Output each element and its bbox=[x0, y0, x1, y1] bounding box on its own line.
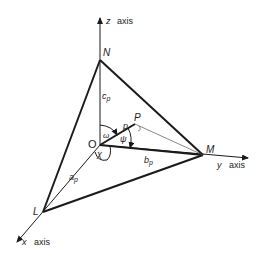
edge-NM bbox=[100, 60, 203, 155]
point-N-label: N bbox=[103, 47, 111, 58]
z-axis-name: z bbox=[105, 16, 111, 26]
edge-NL bbox=[43, 60, 100, 212]
x-axis-name: x bbox=[21, 237, 27, 247]
intercept-diagram: z axis y axis x axis N M L P O cp bp ap … bbox=[0, 0, 267, 257]
bp-label: bp bbox=[144, 155, 153, 167]
point-P-label: P bbox=[134, 112, 141, 123]
point-L-label: L bbox=[33, 206, 39, 217]
cp-label: cp bbox=[102, 91, 111, 103]
x-axis-label: axis bbox=[34, 237, 51, 247]
psi-label: ψ bbox=[120, 134, 127, 144]
p-label: p bbox=[122, 121, 128, 131]
segment-OM bbox=[100, 145, 203, 155]
origin-O-label: O bbox=[88, 138, 97, 150]
ap-label: ap bbox=[69, 172, 78, 184]
psi-arc bbox=[128, 128, 131, 148]
x-axis-line bbox=[17, 145, 100, 242]
y-axis-name: y bbox=[216, 160, 222, 170]
z-axis-label: axis bbox=[117, 16, 134, 26]
chi-label: χ bbox=[96, 149, 103, 159]
omega-label: ω bbox=[103, 131, 109, 140]
point-M-label: M bbox=[206, 144, 215, 155]
right-angle-mark bbox=[138, 126, 140, 131]
y-axis-label: axis bbox=[229, 160, 246, 170]
